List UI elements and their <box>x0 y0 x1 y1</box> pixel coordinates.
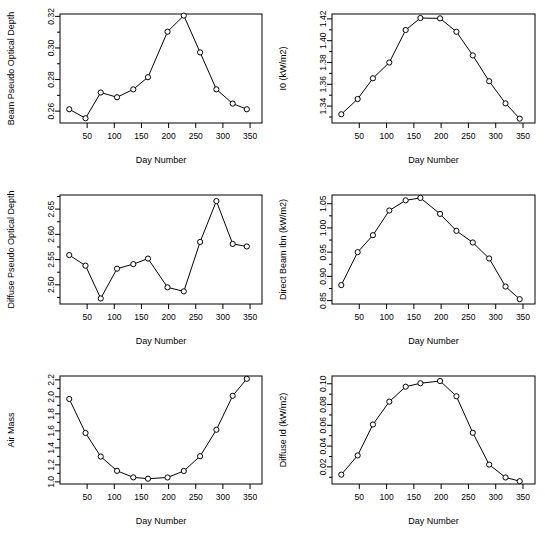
y-axis-tick-label: 2.2 <box>46 374 56 386</box>
y-axis-tick-label: 0.32 <box>46 8 56 25</box>
data-point-marker <box>83 263 88 268</box>
data-point-marker <box>418 381 423 386</box>
y-axis-tick-label: 2.55 <box>46 251 56 268</box>
x-axis-tick-label: 100 <box>379 312 393 322</box>
plot-frame <box>60 195 262 304</box>
data-point-marker <box>67 107 72 112</box>
data-point-marker <box>437 378 442 383</box>
y-axis-tick-label: 1.6 <box>46 425 56 437</box>
x-axis-title: Day Number <box>136 336 187 346</box>
y-axis-tick-label: 0.02 <box>318 458 328 475</box>
data-point-marker <box>165 475 170 480</box>
y-axis-tick-label: 2.60 <box>46 226 56 243</box>
plot-panel-bottom-left: 1.01.21.41.61.82.02.25010015020025030035… <box>0 362 272 542</box>
data-point-marker <box>98 454 103 459</box>
x-axis-tick-label: 150 <box>407 312 421 322</box>
x-axis-tick-label: 350 <box>243 312 257 322</box>
x-axis-tick-label: 200 <box>434 312 448 322</box>
y-axis-tick-label: 2.50 <box>46 276 56 293</box>
x-axis-tick-label: 250 <box>461 131 475 141</box>
data-point-marker <box>387 208 392 213</box>
data-point-marker <box>114 95 119 100</box>
data-point-marker <box>339 112 344 117</box>
y-axis-title: Air Mass <box>6 412 16 448</box>
data-point-marker <box>165 29 170 34</box>
y-axis-title: I0 (kW/m2) <box>278 46 288 90</box>
data-point-marker <box>244 244 249 249</box>
y-axis-tick-label: 0.06 <box>318 417 328 434</box>
x-axis-tick-label: 50 <box>82 312 92 322</box>
data-point-marker <box>403 198 408 203</box>
x-axis-tick-label: 350 <box>243 492 257 502</box>
y-axis-tick-label: 0.95 <box>318 244 328 261</box>
data-point-marker <box>403 384 408 389</box>
y-axis-tick-label: 1.38 <box>318 54 328 71</box>
x-axis-tick-label: 350 <box>516 492 530 502</box>
x-axis-tick-label: 150 <box>407 131 421 141</box>
data-point-marker <box>503 284 508 289</box>
data-point-marker <box>114 468 119 473</box>
data-point-marker <box>230 393 235 398</box>
y-axis-tick-label: 1.36 <box>318 76 328 93</box>
plot-svg: 1.341.361.381.401.4250100150200250300350… <box>272 0 545 181</box>
data-point-marker <box>230 241 235 246</box>
y-axis-tick-label: 1.42 <box>318 10 328 27</box>
plot-svg: 2.502.552.602.6550100150200250300350Day … <box>0 181 272 362</box>
x-axis-tick-label: 50 <box>82 492 92 502</box>
data-point-marker <box>487 462 492 467</box>
x-axis-tick-label: 100 <box>107 492 121 502</box>
plot-frame <box>60 14 262 123</box>
x-axis-tick-label: 350 <box>243 131 257 141</box>
data-point-marker <box>181 13 186 18</box>
y-axis-tick-label: 0.28 <box>46 71 56 88</box>
y-axis-title: Direct Beam Ibn (kW/m2) <box>278 199 288 300</box>
data-point-marker <box>198 454 203 459</box>
plot-frame <box>332 376 535 484</box>
y-axis-title: Diffuse Id (kW/m2) <box>278 393 288 467</box>
y-axis-title: Beam Pseudo Optical Depth <box>6 12 16 126</box>
data-point-marker <box>503 101 508 106</box>
data-series-line <box>69 16 247 119</box>
y-axis-tick-label: 0.30 <box>46 39 56 56</box>
x-axis-tick-label: 300 <box>489 312 503 322</box>
data-point-marker <box>165 285 170 290</box>
figure-panel-grid: 0.260.280.300.3250100150200250300350Day … <box>0 0 545 542</box>
plot-frame <box>332 14 535 123</box>
y-axis-tick-label: 1.0 <box>46 476 56 488</box>
data-point-marker <box>214 427 219 432</box>
data-point-marker <box>214 87 219 92</box>
x-axis-tick-label: 50 <box>355 492 365 502</box>
y-axis-tick-label: 0.26 <box>46 103 56 120</box>
y-axis-tick-label: 1.05 <box>318 195 328 212</box>
y-axis-tick-label: 1.8 <box>46 408 56 420</box>
data-series-line <box>341 381 519 481</box>
data-point-marker <box>244 376 249 381</box>
x-axis-tick-label: 350 <box>516 131 530 141</box>
data-point-marker <box>387 60 392 65</box>
y-axis-tick-label: 0.85 <box>318 292 328 309</box>
data-point-marker <box>487 256 492 261</box>
x-axis-tick-label: 150 <box>134 492 148 502</box>
x-axis-tick-label: 250 <box>189 131 203 141</box>
x-axis-tick-label: 300 <box>216 312 230 322</box>
x-axis-tick-label: 300 <box>216 492 230 502</box>
x-axis-tick-label: 100 <box>379 131 393 141</box>
x-axis-tick-label: 350 <box>516 312 530 322</box>
x-axis-tick-label: 250 <box>189 312 203 322</box>
y-axis-tick-label: 0.10 <box>318 375 328 392</box>
plot-panel-top-right: 1.341.361.381.401.4250100150200250300350… <box>272 0 545 181</box>
x-axis-title: Day Number <box>136 516 187 526</box>
x-axis-tick-label: 300 <box>489 131 503 141</box>
x-axis-tick-label: 200 <box>162 492 176 502</box>
data-point-marker <box>454 394 459 399</box>
plot-svg: 0.850.900.951.001.0550100150200250300350… <box>272 181 545 362</box>
data-point-marker <box>181 289 186 294</box>
data-series-line <box>69 201 247 298</box>
plot-panel-middle-left: 2.502.552.602.6550100150200250300350Day … <box>0 181 272 362</box>
data-point-marker <box>198 239 203 244</box>
data-point-marker <box>198 50 203 55</box>
data-point-marker <box>454 228 459 233</box>
data-point-marker <box>131 87 136 92</box>
x-axis-tick-label: 250 <box>461 492 475 502</box>
y-axis-title: Diffuse Pseudo Optical Depth <box>6 191 16 309</box>
